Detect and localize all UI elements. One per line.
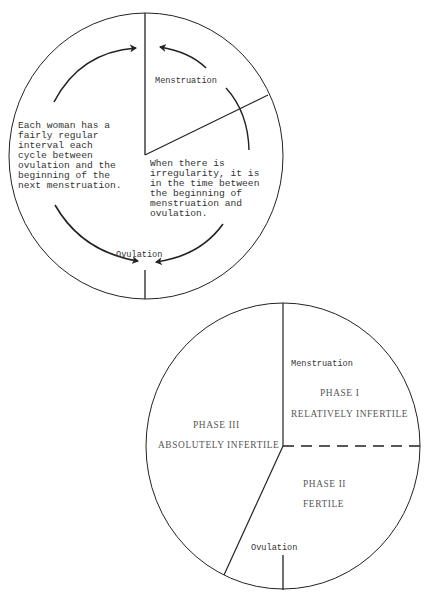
top-ovulation-label: Ovulation — [116, 250, 162, 260]
phase-2-description: FERTILE — [303, 499, 344, 509]
phase-2: PHASE II FERTILE — [303, 479, 346, 509]
phase-3-description: ABSOLUTELY INFERTILE — [158, 440, 279, 450]
top-cycle-diagram: Menstruation Ovulation Each woman has a … — [9, 13, 283, 299]
phase-1-name: PHASE I — [320, 388, 359, 398]
top-menstruation-label: Menstruation — [155, 76, 217, 86]
arrow-right-upper — [160, 47, 206, 68]
arc-right-middle — [226, 88, 249, 150]
bottom-phase-diagram: Menstruation PHASE I RELATIVELY INFERTIL… — [146, 303, 420, 590]
arrow-right-lower — [156, 224, 223, 262]
phase-2-name: PHASE II — [303, 479, 346, 489]
right-note: When there is irregularity, it is in the… — [150, 158, 259, 219]
cycle-diagrams: Menstruation Ovulation Each woman has a … — [0, 0, 429, 600]
right-note-line: ovulation. — [150, 208, 208, 219]
top-menstruation-end-line — [145, 95, 268, 155]
phase-3-name: PHASE III — [193, 420, 240, 430]
phase-1: PHASE I RELATIVELY INFERTILE — [291, 388, 408, 419]
left-note-line: next menstruation. — [18, 180, 122, 191]
phase-1-description: RELATIVELY INFERTILE — [291, 409, 408, 419]
left-note: Each woman has a fairly regular interval… — [18, 120, 122, 191]
phase-divider-diagonal — [224, 446, 283, 575]
arrow-left-upper — [54, 48, 136, 102]
bottom-menstruation-label: Menstruation — [291, 359, 353, 369]
phase-3: PHASE III ABSOLUTELY INFERTILE — [158, 420, 279, 450]
bottom-ovulation-label: Ovulation — [251, 543, 297, 553]
